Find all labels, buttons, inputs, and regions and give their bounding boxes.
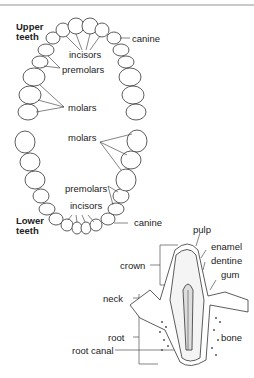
root-canal-label: root canal: [72, 346, 114, 356]
bone-label: bone: [221, 333, 242, 343]
upper-premolars-label: premolars: [62, 65, 104, 75]
lower-premolars-label: premolars: [65, 184, 107, 194]
upper-canine-label: canine: [132, 34, 160, 44]
root-label: root: [108, 333, 124, 343]
upper-teeth-title: Upper teeth: [16, 22, 43, 43]
upper-title-line2: teeth: [16, 32, 43, 42]
lower-title-line2: teeth: [16, 226, 44, 236]
upper-incisors-label: incisors: [69, 50, 101, 60]
lower-incisors-label: incisors: [70, 201, 102, 211]
lower-molars-label: molars: [68, 133, 97, 143]
upper-molars-label: molars: [68, 103, 97, 113]
neck-label: neck: [103, 294, 123, 304]
teeth-diagram-art: [0, 0, 254, 378]
crown-label: crown: [120, 261, 145, 271]
gum-label: gum: [221, 270, 239, 280]
dentine-label: dentine: [211, 256, 242, 266]
lower-teeth-title: Lower teeth: [16, 216, 44, 237]
lower-canine-label: canine: [134, 218, 162, 228]
pulp-label: pulp: [193, 225, 211, 235]
enamel-label: enamel: [211, 242, 242, 252]
